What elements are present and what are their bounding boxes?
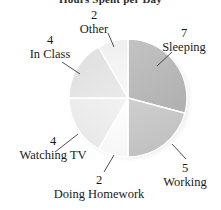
slice-value-sleeping: 7 <box>148 26 220 40</box>
slice-category-homework: Doing Homework <box>44 187 154 201</box>
slice-label-working: 5 Working <box>150 161 220 189</box>
slice-value-watching-tv: 4 <box>1 134 105 148</box>
slice-value-other: 2 <box>63 8 125 22</box>
slice-label-homework: 2 Doing Homework <box>44 173 154 201</box>
slice-label-watching-tv: 4 Watching TV <box>1 134 105 162</box>
slice-category-watching-tv: Watching TV <box>1 148 105 162</box>
slice-category-in-class: In Class <box>8 47 92 61</box>
slice-category-sleeping: Sleeping <box>148 40 220 54</box>
pie-chart: Hours Spent per Day <box>0 0 221 210</box>
slice-category-other: Other <box>63 22 125 36</box>
slice-value-homework: 2 <box>44 173 154 187</box>
slice-category-working: Working <box>150 175 220 189</box>
slice-label-in-class: 4 In Class <box>8 33 92 61</box>
slice-label-other: 2 Other <box>63 8 125 36</box>
leader-line-working <box>172 144 186 159</box>
slice-label-sleeping: 7 Sleeping <box>148 26 220 54</box>
slice-value-working: 5 <box>150 161 220 175</box>
